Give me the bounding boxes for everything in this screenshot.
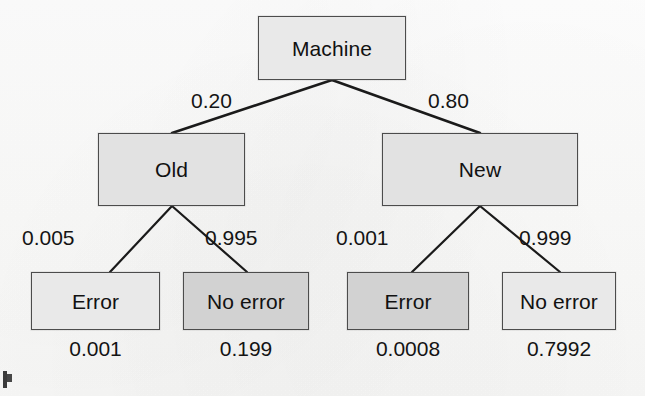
node-old-error-label: Error [72,291,119,312]
node-new-error-label: Error [384,291,431,312]
node-new-noerror-label: No error [520,291,598,312]
outcome-value-new-noerror: 0.7992 [502,338,616,359]
node-new-label: New [459,159,501,180]
probability-tree-diagram: Machine Old New Error No error Error No … [0,0,645,396]
outcome-value-old-noerror: 0.199 [183,338,309,359]
node-old[interactable]: Old [98,133,245,206]
branch-label-old-error: 0.005 [22,227,75,248]
page-edge-artifact [3,371,12,388]
edge-old-error [110,206,172,272]
node-new-noerror[interactable]: No error [502,272,616,330]
branch-label-root-old: 0.20 [191,90,232,111]
edge-new-error [412,206,480,272]
outcome-value-new-error: 0.0008 [347,338,469,359]
node-machine[interactable]: Machine [258,16,406,80]
node-old-noerror-label: No error [207,291,285,312]
branch-label-new-error: 0.001 [336,227,389,248]
outcome-value-old-error: 0.001 [31,338,160,359]
node-old-label: Old [155,159,188,180]
node-old-error[interactable]: Error [31,272,160,330]
node-old-noerror[interactable]: No error [183,272,309,330]
branch-label-root-new: 0.80 [428,90,469,111]
branch-label-new-noerror: 0.999 [519,227,572,248]
node-new-error[interactable]: Error [347,272,469,330]
branch-label-old-noerror: 0.995 [205,227,258,248]
node-new[interactable]: New [382,133,578,206]
node-machine-label: Machine [292,38,372,59]
